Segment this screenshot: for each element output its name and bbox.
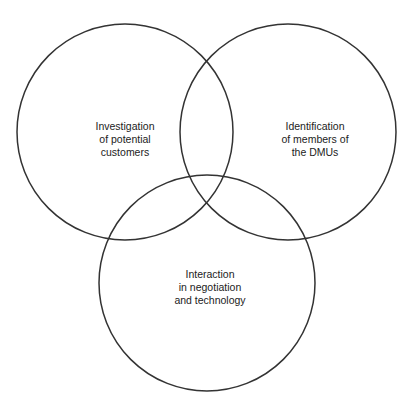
label-investigation: Investigation of potential customers	[60, 120, 190, 159]
label-investigation-line-1: Investigation	[60, 120, 190, 133]
label-identification-line-3: the DMUs	[250, 146, 380, 159]
label-identification-line-2: of members of	[250, 133, 380, 146]
label-investigation-line-2: of potential	[60, 133, 190, 146]
label-investigation-line-3: customers	[60, 146, 190, 159]
label-interaction-line-3: and technology	[145, 294, 275, 307]
label-identification-line-1: Identification	[250, 120, 380, 133]
venn-diagram	[0, 0, 413, 407]
label-interaction-line-2: in negotiation	[145, 281, 275, 294]
label-interaction-line-1: Interaction	[145, 268, 275, 281]
label-interaction: Interaction in negotiation and technolog…	[145, 268, 275, 307]
label-identification: Identification of members of the DMUs	[250, 120, 380, 159]
